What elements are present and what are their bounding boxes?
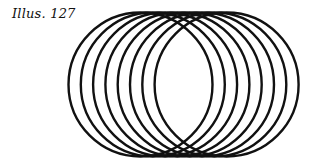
circle-7	[142, 13, 286, 157]
circle-8	[155, 13, 299, 157]
circle-3	[93, 13, 237, 157]
circle-group	[69, 13, 299, 157]
circle-4	[105, 13, 249, 157]
overlapping-circles-figure	[0, 0, 310, 168]
circle-6	[130, 13, 274, 157]
circle-1	[69, 13, 213, 157]
circle-5	[118, 13, 262, 157]
circle-2	[81, 13, 225, 157]
